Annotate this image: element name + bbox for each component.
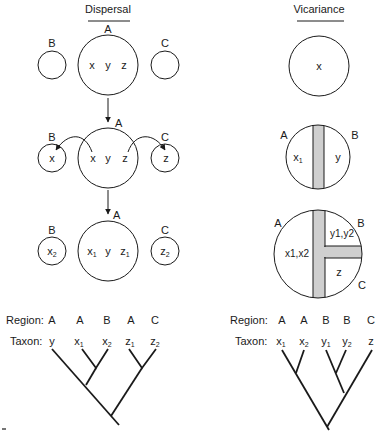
region-cell: A [278,314,286,326]
region-label-b: B [351,129,358,141]
vicariance-stage-1: x [289,36,349,96]
region-label-a: A [113,209,121,221]
tree-branch [82,349,108,368]
tree-branch [129,349,156,368]
region-label-a: A [280,129,288,141]
taxon-y: y [105,152,111,164]
taxon-x2: x2 [47,245,57,258]
region-cell: A [76,314,84,326]
tree-branch [336,350,346,373]
taxon-cell: y1 [321,335,331,348]
taxon-cell: y [49,335,55,347]
taxon-z1: z1 [120,245,130,258]
region-label-b: B [48,131,55,143]
taxon-y: y [105,59,111,71]
taxon-cell: x2 [102,335,112,348]
taxa-x1-x2: x1,x2 [285,248,309,259]
taxon-x: x [316,60,322,72]
vicariance-title: Vicariance [293,3,344,15]
dispersal-stage-2: A x y z B x C z [38,117,179,188]
region-cell: B [322,314,329,326]
tree-branch [296,350,304,373]
barrier-band-horizontal [325,246,365,258]
taxon-cell: z2 [150,335,160,348]
taxon-cell: x1 [74,335,84,348]
taxon-cell: x2 [299,335,309,348]
region-label-b: B [48,224,55,236]
taxon-cell: y2 [342,335,352,348]
taxon-y: y [335,151,341,163]
region-label-a: A [104,23,112,35]
region-cell: A [48,314,56,326]
region-label-c: C [161,224,169,236]
region-label-a: A [115,117,123,129]
tree-branch [52,349,119,425]
barrier-band [313,120,324,200]
taxon-y: y [105,245,111,257]
taxa-y1-y2: y1,y2 [330,228,354,239]
taxon-row-label: Taxon: [235,335,267,347]
region-label-a: A [274,217,282,229]
taxon-cell: x1 [276,335,286,348]
taxon-x1: x1 [87,245,97,258]
vicariance-stage-2: A B x1 y [280,120,358,200]
taxon-cell: z [368,335,374,347]
region-cell: A [127,314,135,326]
dispersal-stage-1: A x y z B C [38,23,179,95]
region-cell: A [300,314,308,326]
region-cell: C [151,314,159,326]
vicariance-cladogram: Region: Taxon: A A B B C x1 x2 y1 y2 z [230,314,375,430]
dispersed-taxon-x: x [49,152,55,164]
region-c-circle [151,51,179,79]
dispersal-stage-3: A x1 y z1 B x2 C z2 [38,209,179,281]
region-cell: C [367,314,375,326]
barrier-joint [314,247,326,257]
region-b-circle [38,51,66,79]
tree-branch [86,368,96,385]
region-label-c: C [161,37,169,49]
dispersal-title: Dispersal [85,3,131,15]
tree-branch [327,350,372,427]
dispersal-panel: Dispersal A x y z B C A x y z B x C [6,3,179,425]
biogeography-diagram: Dispersal A x y z B C A x y z B x C [0,0,386,434]
dispersal-arrow-to-c-icon [128,137,165,152]
region-label-b: B [357,217,364,229]
taxon-z2: z2 [160,245,170,258]
taxon-x: x [89,59,95,71]
taxon-z: z [336,266,342,278]
tree-branch [282,350,329,430]
taxon-z: z [121,59,127,71]
dispersal-arrow-to-b-icon [56,137,92,152]
tree-branch [326,350,344,393]
dispersal-cladogram: Region: Taxon: A A B A C y x1 x2 z1 z2 [6,314,160,425]
vicariance-stage-3: A B C x1,x2 y1,y2 z [274,205,366,305]
region-row-label: Region: [230,314,268,326]
region-cell: B [343,314,350,326]
taxon-cell: z1 [125,335,135,348]
tree-branch [111,368,142,416]
region-label-c: C [358,279,366,291]
taxon-row-label: Taxon: [10,335,42,347]
taxon-x: x [90,152,96,164]
taxon-x1: x1 [293,151,303,164]
region-cell: B [103,314,110,326]
dispersed-taxon-z: z [163,152,169,164]
region-row-label: Region: [6,314,44,326]
vicariance-panel: Vicariance x A B x1 y A B [230,3,375,430]
region-label-c: C [161,131,169,143]
region-label-b: B [48,37,55,49]
taxon-z: z [122,152,128,164]
